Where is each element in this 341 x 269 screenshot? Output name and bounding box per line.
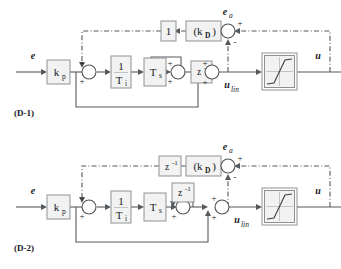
signal-label-error-antiwindup-sub: a [229,11,233,20]
block-integral-gain: 1 T i [111,56,131,88]
signal-label-u-linear-base: u [224,79,230,90]
block-gain-proportional-label: k [54,66,60,78]
sum-junction-2-sign-top: + [167,58,172,68]
block-antiwindup-transfer-label: z [165,162,169,172]
sum-junction-3-sign-bottom: + [202,77,207,87]
block-gain-proportional-sub: p [62,72,66,81]
block-unit-delay: z -1 [172,183,194,202]
block-sample-time-sub: s [159,71,162,80]
sum-junction-1-sign-bottom: + [79,211,84,221]
block-integral-denominator: T [116,209,123,221]
block-gain-derivative-open: (k [193,160,203,173]
block-sample-time: T s [144,58,166,86]
block-gain-derivative: (k D ) [186,21,221,41]
diagram-caption-d2: (D-2) [14,243,34,253]
sum-junction-3-sign-bottom: + [211,212,216,222]
signal-label-error-antiwindup-base: e [223,141,228,152]
sum-junction-antiwindup-sign-right: + [237,18,242,28]
block-integral-denominator: T [116,74,123,86]
signal-label-error-antiwindup-base: e [223,6,228,17]
sum-junction-1: + + [79,193,96,221]
sum-junction-1: + + [79,58,96,86]
block-saturation [262,53,297,90]
block-gain-proportional: k p [47,195,70,219]
sum-junction-antiwindup-sign-bottom: - [234,37,237,47]
block-antiwindup-transfer-exponent: -1 [172,159,178,167]
signal-label-input: e [31,185,36,196]
signal-label-error-antiwindup: e a [223,141,233,155]
sum-junction-3: + + [211,193,229,222]
block-sample-time-sub: s [159,206,162,215]
block-gain-proportional: k p [47,60,70,84]
block-sample-time-label: T [150,201,157,213]
signal-label-u-linear-sub: lin [231,85,239,94]
block-antiwindup-transfer: z -1 [159,156,181,176]
block-antiwindup-transfer-label: 1 [166,25,172,37]
block-diagram-d1: k p + + 1 T i T s + + [0,0,341,135]
block-sample-time: T s [144,193,166,221]
sum-junction-1-sign-top: + [79,193,84,203]
block-antiwindup-transfer: 1 [161,21,176,41]
signal-label-output: u [315,50,321,61]
block-gain-proportional-label: k [54,201,60,213]
sum-junction-2-sign-bottom: + [167,76,172,86]
block-saturation [262,188,297,225]
diagram-caption-d1: (D-1) [14,108,34,118]
sum-junction-3-sign-top: + [202,58,207,68]
block-integral-gain: 1 T i [111,191,131,223]
signal-label-output: u [315,185,321,196]
block-integral-numerator: 1 [118,60,124,72]
block-gain-derivative: (k D ) [186,156,221,176]
block-sample-time-label: T [150,66,157,78]
signal-label-u-linear-sub: lin [241,220,249,229]
sum-junction-1-sign-bottom: + [79,76,84,86]
block-unit-delay-label: z [197,67,201,77]
block-gain-derivative-sub: D [205,31,211,40]
sum-junction-2-sign-bottom: + [171,211,176,221]
block-gain-proportional-sub: p [62,207,66,216]
signal-label-input: e [31,50,36,61]
signal-label-u-linear: u lin [234,214,249,229]
block-integral-denominator-sub: i [125,79,127,88]
signal-label-u-linear: u lin [224,79,239,94]
sum-junction-antiwindup-sign-bottom: - [234,172,237,182]
block-gain-derivative-open: (k [193,25,203,38]
block-unit-delay-exponent: -1 [185,185,191,193]
block-diagram-d2: k p + + 1 T i T s + + z -1 [0,135,341,269]
block-integral-denominator-sub: i [125,214,127,223]
signal-label-error-antiwindup: e a [223,6,233,20]
figure-canvas: k p + + 1 T i T s + + [0,0,341,269]
block-gain-derivative-sub: D [205,166,211,175]
signal-label-error-antiwindup-sub: a [229,146,233,155]
block-integral-numerator: 1 [118,195,124,207]
sum-junction-antiwindup-sign-right: + [237,153,242,163]
block-gain-derivative-close: ) [212,160,216,173]
block-gain-derivative-close: ) [212,25,216,38]
block-unit-delay-label: z [178,188,182,198]
sum-junction-3-sign-top: + [211,193,216,203]
signal-label-u-linear-base: u [234,214,240,225]
sum-junction-1-sign-top: + [79,58,84,68]
